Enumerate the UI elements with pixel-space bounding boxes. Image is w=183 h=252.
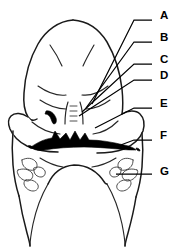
right-lobe-1: [118, 158, 133, 170]
right-lateral-wall: [136, 133, 143, 197]
midline-suture-ticks: [70, 106, 77, 121]
left-lobe-3: [24, 180, 38, 191]
vomer-left-wall: [65, 102, 68, 124]
label-d: D: [160, 70, 169, 82]
label-a: A: [160, 10, 169, 22]
right-lobe-2: [122, 169, 138, 181]
right-inferior-prong: [125, 197, 136, 246]
label-g: G: [160, 166, 169, 178]
label-c: C: [160, 54, 169, 66]
right-orbital-arc: [82, 86, 108, 95]
right-subarch-crease: [92, 158, 116, 167]
band-right-accent: [136, 148, 140, 151]
left-lobe-1: [22, 158, 37, 170]
left-lobe-2: [17, 169, 33, 181]
left-condyle-hook: [45, 111, 56, 124]
left-subarch-crease: [40, 158, 63, 167]
left-supraaural-ridge: [40, 100, 66, 109]
left-prong-inner-edge: [30, 184, 48, 246]
left-inferior-prong: [19, 196, 30, 246]
right-lobe-3: [117, 180, 131, 191]
label-e: E: [160, 98, 168, 110]
anatomical-figure: ABCDEFG: [0, 0, 183, 252]
central-arch: [48, 165, 107, 184]
label-f: F: [160, 130, 167, 142]
right-prong-inner-edge: [107, 184, 125, 246]
label-b: B: [160, 32, 169, 44]
figure-canvas: [0, 0, 183, 252]
